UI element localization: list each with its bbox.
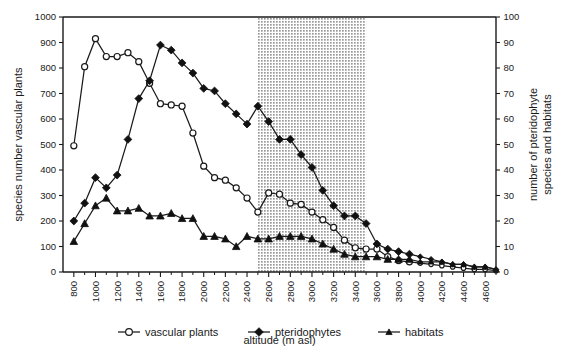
marker-open-circle [157,101,163,107]
marker-open-circle [103,53,109,59]
x-tick-label: 4600 [480,281,491,302]
marker-open-circle [136,59,142,65]
y-tick-label-left: 700 [40,88,56,99]
y-tick-label-left: 1000 [35,11,56,22]
y-tick-label-right: 20 [504,215,515,226]
y-tick-label-left: 100 [40,241,56,252]
y-axis-title-right: number of pteridophytespecies and habita… [527,88,553,201]
shaded-altitude-band [258,17,366,272]
x-tick-label: 3800 [393,281,404,302]
x-tick-label: 1000 [90,281,101,302]
marker-open-circle [331,224,337,230]
shaded-band-rect [258,17,366,272]
x-tick-label: 1400 [133,281,144,302]
marker-open-circle [352,245,358,251]
y-tick-label-right: 30 [504,190,515,201]
x-tick-label: 3000 [306,281,317,302]
marker-filled-diamond [70,217,78,225]
marker-open-circle [190,130,196,136]
marker-filled-diamond [135,95,143,103]
marker-open-circle [125,50,131,56]
marker-filled-diamond [200,84,208,92]
marker-filled-diamond [384,245,392,253]
x-tick-label: 4400 [458,281,469,302]
marker-open-circle [71,143,77,149]
x-tick-label: 3200 [328,281,339,302]
marker-open-circle [255,209,261,215]
y-tick-label-left: 0 [51,266,56,277]
marker-open-circle [298,201,304,207]
x-tick-label: 1200 [112,281,123,302]
marker-open-circle [212,175,218,181]
marker-open-circle [341,237,347,243]
marker-open-circle [126,329,133,336]
marker-open-circle [179,103,185,109]
legend-label: habitats [405,326,444,338]
marker-open-circle [320,217,326,223]
x-tick-label: 3400 [350,281,361,302]
y-axis-title-right-line: species and habitats [541,94,553,195]
y-tick-label-right: 60 [504,113,515,124]
legend-item-vascular-plants[interactable]: vascular plants [118,326,219,338]
marker-filled-diamond [157,41,165,49]
x-tick-label: 2400 [241,281,252,302]
marker-filled-diamond [81,199,89,207]
x-tick-label: 1800 [176,281,187,302]
y-tick-label-left: 500 [40,139,56,150]
marker-open-circle [201,163,207,169]
x-tick-label: 800 [68,281,79,297]
y-axis-title-right-line: number of pteridophyte [527,88,539,201]
marker-open-circle [92,36,98,42]
x-tick-label: 2800 [285,281,296,302]
marker-open-circle [266,190,272,196]
y-tick-label-left: 200 [40,215,56,226]
marker-filled-triangle [167,210,175,217]
chart-figure: 0100200300400500600700800900100001020304… [0,0,562,353]
y-tick-label-right: 10 [504,241,515,252]
marker-open-circle [114,53,120,59]
y-axis-title-left: species number vascular plants [12,67,24,222]
y-tick-label-right: 50 [504,139,515,150]
marker-open-circle [287,200,293,206]
marker-filled-triangle [243,233,251,240]
marker-filled-triangle [81,220,89,227]
marker-filled-diamond [395,248,403,256]
y-tick-label-right: 100 [504,11,520,22]
y-tick-label-right: 90 [504,37,515,48]
y-tick-label-left: 800 [40,62,56,73]
y-tick-label-left: 300 [40,190,56,201]
marker-open-circle [168,102,174,108]
marker-filled-triangle [135,204,143,211]
marker-open-circle [222,177,228,183]
marker-open-circle [82,64,88,70]
legend-label: vascular plants [145,326,219,338]
marker-filled-diamond [124,135,132,143]
x-tick-label: 2000 [198,281,209,302]
x-tick-label: 3600 [371,281,382,302]
chart-legend: vascular plantspteridophyteshabitats [118,326,444,338]
x-tick-label: 4000 [415,281,426,302]
marker-open-circle [244,195,250,201]
y-tick-label-left: 400 [40,164,56,175]
marker-open-circle [276,191,282,197]
marker-filled-triangle [70,238,78,245]
y-tick-label-right: 80 [504,62,515,73]
y-tick-label-right: 70 [504,88,515,99]
marker-open-circle [363,246,369,252]
legend-item-habitats[interactable]: habitats [378,326,444,338]
y-tick-label-left: 600 [40,113,56,124]
y-tick-label-right: 40 [504,164,515,175]
marker-open-circle [233,185,239,191]
species-altitude-line-chart: 0100200300400500600700800900100001020304… [0,0,562,353]
x-tick-label: 2200 [220,281,231,302]
marker-open-circle [309,209,315,215]
x-tick-label: 1600 [155,281,166,302]
y-tick-label-left: 900 [40,37,56,48]
x-tick-label: 2600 [263,281,274,302]
x-tick-label: 4200 [436,281,447,302]
legend-label: pteridophytes [275,326,342,338]
marker-filled-triangle [103,194,111,201]
y-tick-label-right: 0 [504,266,509,277]
marker-filled-triangle [92,202,100,209]
